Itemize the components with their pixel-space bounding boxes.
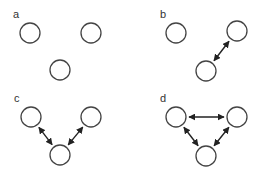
diagram-canvas: a b c d xyxy=(0,0,266,179)
double-arrow-icon xyxy=(39,127,52,144)
panel-label: b xyxy=(160,8,166,20)
node-circle xyxy=(21,107,41,127)
double-arrow-icon xyxy=(214,127,229,146)
panel-c: c xyxy=(14,92,101,165)
node-circle xyxy=(81,23,101,43)
panel-d: d xyxy=(160,92,247,166)
node-circle xyxy=(50,60,70,80)
double-arrow-icon xyxy=(184,127,198,145)
double-arrow-icon xyxy=(68,127,83,145)
node-circle xyxy=(196,61,216,81)
node-circle xyxy=(166,107,186,127)
node-circle xyxy=(227,107,247,127)
node-circle xyxy=(196,146,216,166)
node-circle xyxy=(50,145,70,165)
double-arrow-icon xyxy=(214,41,229,60)
node-circle xyxy=(166,23,186,43)
panel-label: c xyxy=(14,92,20,104)
panel-label: d xyxy=(160,92,166,104)
panel-b: b xyxy=(160,8,247,81)
panel-a: a xyxy=(13,8,101,80)
panel-label: a xyxy=(13,8,20,20)
node-circle xyxy=(81,107,101,127)
node-circle xyxy=(227,21,247,41)
node-circle xyxy=(20,23,40,43)
diagram-figure: a b c d xyxy=(0,0,266,179)
